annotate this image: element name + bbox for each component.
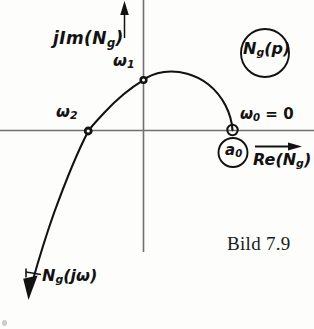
imaginary-axis-label-main: jIm(N [53, 28, 107, 48]
real-axis-label-tail: ) [304, 150, 311, 169]
figure-caption: Bild 7.9 [227, 233, 291, 255]
omega2-label: ω2 [56, 104, 77, 122]
locus-direction-arrowhead-icon [23, 276, 37, 301]
imaginary-axis-label-sub: g [107, 36, 116, 50]
transfer-function-badge-label: Ng(p) [243, 41, 290, 59]
a0-label: a0 [225, 143, 242, 159]
real-axis-label-main: Re(N [253, 150, 296, 169]
real-axis-label: Re(Ng) [253, 152, 311, 170]
omega2-label-main: ω [56, 102, 70, 121]
omega1-label: ω1 [113, 53, 134, 71]
nyquist-figure: jIm(Ng) ω1 ω2 ω0 = 0 a0 Ng(p) Re(Ng) Ng(… [0, 0, 314, 329]
omega1-point-marker-center [142, 79, 145, 82]
omega2-label-sub: 2 [70, 109, 78, 122]
a0-label-sub: 0 [235, 148, 242, 159]
curve-label: Ng(jω) [42, 268, 97, 286]
page-scan-speck [2, 320, 7, 326]
transfer-function-badge-tail: (p) [264, 39, 290, 58]
omega2-point-marker-center [87, 129, 90, 132]
omega0-label-value: = 0 [260, 105, 293, 123]
curve-label-tail: (jω) [63, 266, 97, 285]
imaginary-axis-label-tail: ) [116, 28, 124, 48]
real-axis-label-sub: g [296, 157, 304, 170]
omega0-label-main: ω [240, 105, 253, 123]
omega1-label-main: ω [113, 51, 127, 70]
a0-label-main: a [225, 141, 235, 159]
imaginary-axis-label: jIm(Ng) [53, 30, 124, 49]
transfer-function-badge-main: N [243, 39, 256, 58]
curve-label-main: N [42, 266, 55, 285]
omega1-label-sub: 1 [127, 58, 135, 71]
omega0-label: ω0 = 0 [240, 107, 294, 123]
